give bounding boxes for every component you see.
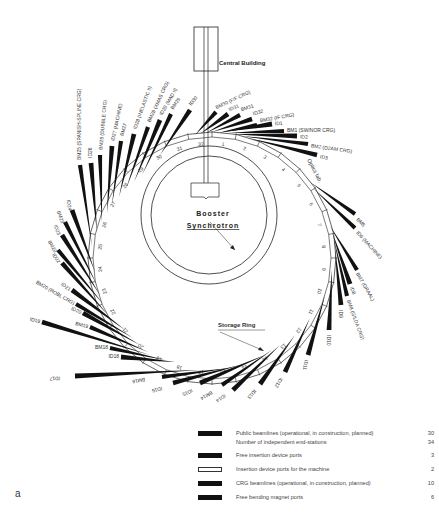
booster-label-2: Synchrotron xyxy=(187,222,240,230)
beamline-label: ID2 xyxy=(300,133,308,139)
legend-count: 6 xyxy=(431,494,434,500)
beamline-label: ID23 xyxy=(53,224,62,236)
cell-number: 2 xyxy=(242,145,247,152)
beamline-label: ID32 xyxy=(252,108,264,117)
beamline-label: BM26 (DUBBLE CRG) xyxy=(97,99,107,150)
legend-label: Number of independent end-stations xyxy=(236,439,327,445)
legend-swatch xyxy=(198,467,222,472)
legend-row: Number of independent end-stations34 xyxy=(198,439,434,447)
beamline: ID26 xyxy=(87,147,97,232)
cell-number: 1 xyxy=(221,141,225,147)
beamline-label: ID12 xyxy=(274,377,285,389)
beamline: ID11 xyxy=(302,295,325,371)
cell-number: 10 xyxy=(316,288,323,295)
legend-count: 30 xyxy=(428,430,434,436)
legend-row: Free bending magnet ports6 xyxy=(198,494,434,502)
beamline-label: ID9 xyxy=(338,310,344,318)
beamline-label: ID15 xyxy=(181,388,193,398)
figure-letter: a xyxy=(15,488,21,499)
beamline-label: BM16 xyxy=(132,377,146,385)
storage-ring-label: Storage Ring xyxy=(218,322,256,328)
beamline-label: ID21 xyxy=(60,281,72,292)
beamline-label: ID8 xyxy=(349,286,358,296)
legend-label: Insertion device ports for the machine xyxy=(236,466,329,472)
legend-row: Public beamlines (operational, in constr… xyxy=(198,430,434,438)
cell-number: 24 xyxy=(97,266,104,272)
cell-number: 31 xyxy=(176,145,183,152)
beamline-label: BM8 (GILDA CRG) xyxy=(346,299,366,341)
beamline-label: ID14 xyxy=(215,393,227,404)
legend-swatch xyxy=(198,481,222,486)
beamline-label: BM23 xyxy=(56,210,66,225)
beamline-label: ID26 xyxy=(87,147,93,158)
cell-number: 4 xyxy=(281,166,287,173)
cell-number: 18 xyxy=(176,364,183,371)
cell-number: 3 xyxy=(262,154,267,161)
beamline-label: BM7 (GRAAL) xyxy=(355,271,376,302)
cell-number: 9 xyxy=(321,268,327,272)
beamline-label: BM14 xyxy=(199,390,214,402)
legend-count: 10 xyxy=(428,480,434,486)
beamline: ID12 xyxy=(274,318,310,389)
central-building-label: Central Building xyxy=(219,60,266,66)
legend-label: Public beamlines (operational, in constr… xyxy=(236,430,373,436)
beamline-label: ID11 xyxy=(302,360,310,371)
legend-count: 3 xyxy=(431,452,434,458)
beamlines: BM25 (SPANISH-SPLINE CRG)ID26BM26 (DUBBL… xyxy=(29,80,384,404)
legend-label: CRG beamlines (operational, in construct… xyxy=(236,480,371,486)
legend-row: Free insertion device ports3 xyxy=(198,452,434,460)
beamline: ID21 xyxy=(60,281,125,330)
cell-number: 25 xyxy=(97,243,104,249)
beamline-label: ID3 xyxy=(320,153,329,160)
cell-number: 7 xyxy=(317,223,324,228)
legend-count: 34 xyxy=(428,439,434,445)
cell-number: 19 xyxy=(155,355,163,363)
beamline-label: BM2 (D2AM CRG) xyxy=(311,142,353,154)
cell-number: 22 xyxy=(109,308,117,316)
legend-swatch xyxy=(198,495,222,500)
beamline-label: BM18 xyxy=(95,344,108,350)
beamline: BM14 xyxy=(199,350,272,402)
beamline-label: ID17 xyxy=(49,376,60,382)
beamline: ID19 xyxy=(29,316,150,355)
beamline-label: BM5 xyxy=(355,216,367,228)
beamline-label: BM25 (SPANISH-SPLINE CRG) xyxy=(76,88,82,160)
beamline-label: ID13 xyxy=(246,389,258,401)
beamline-label: BM27 xyxy=(118,122,127,136)
booster-label-1: Booster xyxy=(196,210,229,217)
legend-count: 2 xyxy=(431,466,434,472)
legend-label: Free bending magnet ports xyxy=(236,494,303,500)
legend-row: Insertion device ports for the machine2 xyxy=(198,466,434,474)
legend-row: CRG beamlines (operational, in construct… xyxy=(198,480,434,488)
beamline-label: ID16 xyxy=(151,386,163,395)
beamline-label: ID30 xyxy=(187,94,199,106)
cell-number: 32 xyxy=(198,141,204,148)
beamline-label: ID1 xyxy=(275,120,283,127)
legend-label: Free insertion device ports xyxy=(236,452,302,458)
beamline-label: BM20 (ROBL CRG) xyxy=(35,279,76,306)
cell-number: 26 xyxy=(100,221,107,228)
cell-number: 23 xyxy=(100,288,107,295)
cell-number: 6 xyxy=(308,201,315,206)
beamline-label: BM19 xyxy=(75,320,89,329)
beamline-label: ID6 (MACHINE) xyxy=(355,230,383,261)
beamline-label: ID10 xyxy=(326,335,332,346)
beamline-label: BM1 (SW/NOR CRG) xyxy=(287,127,335,133)
beamline: ID27 (MACHINE) xyxy=(107,102,123,213)
beamline: ID28 (INELASTIC II) xyxy=(119,85,153,197)
cell-number: 30 xyxy=(155,153,163,161)
beamline-label: ID18 xyxy=(108,353,119,359)
legend-swatch xyxy=(198,431,222,436)
cell-number: 5 xyxy=(296,182,303,188)
beamline-label: ID19 xyxy=(29,316,41,325)
cell-number: 8 xyxy=(321,245,327,249)
beamline-label: ID24 xyxy=(66,199,74,211)
legend-swatch xyxy=(198,453,222,458)
cell-number: 11 xyxy=(307,308,315,316)
